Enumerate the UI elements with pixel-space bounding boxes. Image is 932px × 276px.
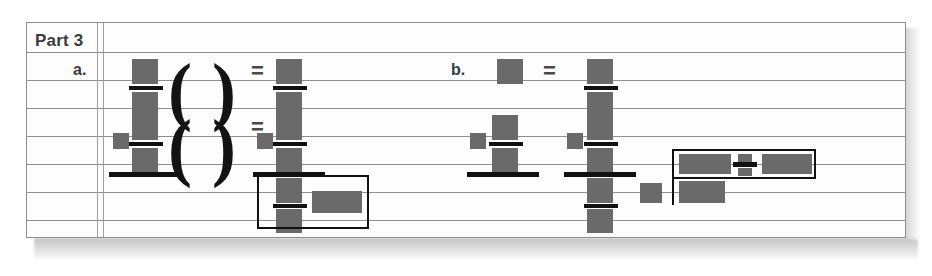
fraction-bar-main [109,172,181,177]
redacted-numeral-small [113,133,129,149]
scanned-page-image: Part 3 a. b. ( ) = ( ) = [0,0,932,276]
redacted-numeral [276,148,302,173]
redacted-answer [679,154,731,174]
fraction-bar [584,204,618,208]
fraction-bar [733,162,757,167]
redacted-numeral [640,183,662,203]
fraction-bar [584,86,618,90]
page-drop-shadow-bottom [34,238,918,260]
redacted-numeral [587,209,613,233]
redacted-numeral [587,178,613,203]
redacted-answer [762,154,812,174]
redacted-answer [312,191,362,213]
fraction-bar [273,86,307,90]
problem-label-a: a. [73,61,86,79]
redacted-numeral [132,59,158,84]
fraction-bar [584,142,618,146]
rule-line-4 [27,136,906,137]
problem-label-b: b. [451,61,465,79]
redacted-numeral-small [738,168,752,176]
fraction-bar [273,142,307,146]
redacted-answer [679,181,725,203]
redacted-numeral [492,148,518,173]
redacted-numeral [132,148,158,173]
page-drop-shadow-right [904,28,920,240]
redacted-numeral [132,115,158,140]
redacted-numeral [587,148,613,173]
redacted-numeral [276,59,302,84]
rule-line-2 [27,80,906,81]
equals-sign: = [543,60,556,82]
fraction-bar [489,142,523,146]
worksheet-paper: Part 3 a. b. ( ) = ( ) = [26,22,906,238]
redacted-numeral [492,115,518,140]
margin-rule-right [103,23,104,238]
fraction-bar-main [564,172,636,177]
redacted-numeral-small [738,154,752,162]
margin-rule-left [97,23,98,238]
paren-close-icon: ) [212,109,236,185]
rule-line-7 [27,220,906,221]
fraction-bar [129,86,163,90]
redacted-numeral-small [257,133,273,149]
equals-sign: = [251,60,264,82]
rule-line-1 [27,52,906,53]
redacted-numeral-small [567,133,583,149]
redacted-numeral-small [470,133,486,149]
redacted-numeral [587,59,613,84]
redacted-numeral [497,59,523,84]
fraction-bar [129,142,163,146]
rule-line-3 [27,108,906,109]
redacted-numeral [276,115,302,140]
section-label-part-3: Part 3 [35,31,83,51]
fraction-bar-main [467,172,539,177]
redacted-numeral [587,115,613,140]
